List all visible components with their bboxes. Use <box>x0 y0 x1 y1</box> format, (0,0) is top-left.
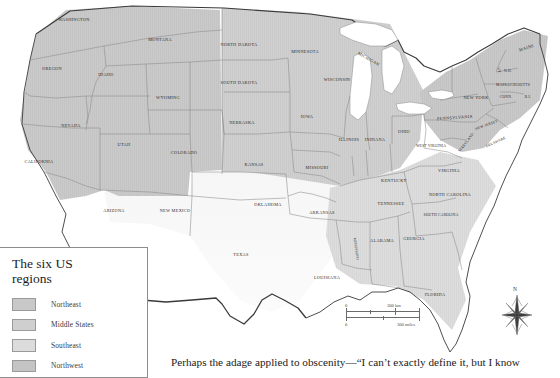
state-label: IDAHO <box>98 72 113 77</box>
map-figure: WASHINGTONOREGONIDAHOMONTANAWYOMINGNEVAD… <box>0 0 560 378</box>
state-label: VIRGINIA <box>438 168 461 173</box>
legend-item-label: Middle States <box>51 320 94 329</box>
state-label: CALIFORNIA <box>24 159 54 164</box>
state-label: OKLAHOMA <box>254 202 282 207</box>
scale-bar: 0 300 km 0 300 miles <box>345 303 437 337</box>
compass-north-label: N <box>513 286 517 292</box>
state-label: ARKANSAS <box>309 210 335 215</box>
state-label: IOWA <box>301 114 314 119</box>
compass-star-icon <box>500 293 534 337</box>
state-label: NORTH DAKOTA <box>220 42 258 47</box>
state-label: ALABAMA <box>370 238 394 243</box>
scale-mi-label: 300 miles <box>397 322 415 327</box>
compass-rose: N <box>500 286 534 336</box>
state-label: WYOMING <box>156 95 180 100</box>
body-text-line: Perhaps the adage applied to obscenity—“… <box>171 356 560 368</box>
legend-item: Middle States <box>12 315 147 336</box>
legend-swatch <box>12 360 36 373</box>
state-label: ARIZONA <box>103 208 125 213</box>
state-label: N.H. <box>504 69 512 73</box>
state-label: WASHINGTON <box>58 17 90 22</box>
state-label: OHIO <box>398 129 410 134</box>
legend-item: Southeast <box>12 335 147 356</box>
state-label: NEW MEXICO <box>160 208 191 213</box>
legend-swatch <box>12 298 36 311</box>
state-label: KANSAS <box>245 162 264 167</box>
state-label: NEBRASKA <box>229 120 255 125</box>
state-label: LOUISIANA <box>314 275 341 280</box>
state-label: NEVADA <box>61 123 81 128</box>
state-label: MINNESOTA <box>291 49 319 54</box>
legend-title: The six US regions <box>12 257 104 286</box>
legend-swatch <box>12 339 36 352</box>
legend-item-label: Southeast <box>51 341 81 350</box>
legend-item: Northeast <box>12 294 147 315</box>
scale-km-label: 300 km <box>387 303 401 308</box>
state-label: SOUTH DAKOTA <box>221 80 258 85</box>
state-label: MASSACHUSETTS <box>496 83 530 87</box>
state-label: TENNESSEE <box>378 201 405 206</box>
state-label: COLORADO <box>171 150 197 155</box>
legend-item-label: Northwest <box>51 361 83 370</box>
state-label: WEST VIRGINIA <box>416 144 446 148</box>
state-label: TEXAS <box>233 252 249 257</box>
state-label: MISSOURI <box>306 165 329 170</box>
legend-swatch <box>12 319 36 332</box>
legend-rows: NortheastMiddle StatesSoutheastNorthwest… <box>12 294 147 378</box>
state-label: FLORIDA <box>425 292 446 297</box>
state-label: R.I. <box>525 95 531 99</box>
state-label: CONN. <box>500 95 512 99</box>
state-label: WISCONSIN <box>324 77 351 82</box>
scale-mi-zero: 0 <box>345 322 347 327</box>
state-label: MONTANA <box>148 37 172 42</box>
state-label: OREGON <box>42 66 62 71</box>
state-label: SOUTH CAROLINA <box>423 213 458 217</box>
state-label: GEORGIA <box>403 236 425 241</box>
legend-item: Northwest <box>12 356 147 377</box>
state-label: INDIANA <box>365 137 386 142</box>
state-label: NORTH CAROLINA <box>429 192 472 197</box>
legend-item-label: Northeast <box>51 300 81 309</box>
state-label: ILLINOIS <box>339 137 360 142</box>
state-label: UTAH <box>118 142 131 147</box>
state-label: NEW YORK <box>463 95 489 100</box>
map-legend: The six US regions NortheastMiddle State… <box>0 247 148 378</box>
state-label: KENTUCKY <box>381 178 407 183</box>
